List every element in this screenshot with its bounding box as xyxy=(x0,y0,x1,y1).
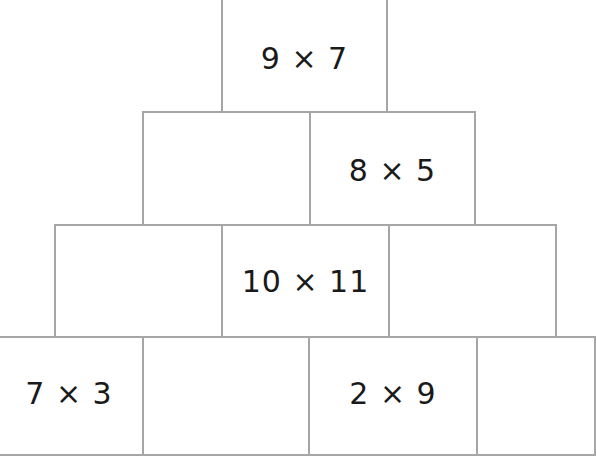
pyramid-brick-row3-2: 10 × 11 xyxy=(221,224,390,338)
pyramid-brick-row4-4[interactable] xyxy=(476,336,596,456)
pyramid-brick-row2-1[interactable] xyxy=(142,111,311,226)
brick-expression: 2 × 9 xyxy=(349,376,436,411)
brick-expression: 8 × 5 xyxy=(349,153,436,188)
pyramid-brick-row1-1: 9 × 7 xyxy=(221,0,388,113)
pyramid-brick-row2-2: 8 × 5 xyxy=(309,111,476,226)
brick-expression: 10 × 11 xyxy=(242,264,370,299)
brick-expression: 9 × 7 xyxy=(261,41,348,76)
pyramid-brick-row3-1[interactable] xyxy=(54,224,223,338)
pyramid-brick-row4-1: 7 × 3 xyxy=(0,336,144,456)
pyramid-brick-row3-3[interactable] xyxy=(388,224,557,338)
pyramid-brick-row4-2[interactable] xyxy=(142,336,310,456)
pyramid-brick-row4-3: 2 × 9 xyxy=(308,336,478,456)
brick-expression: 7 × 3 xyxy=(25,376,112,411)
